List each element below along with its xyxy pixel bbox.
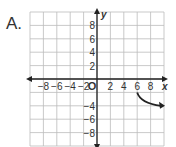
svg-text:2: 2 (108, 81, 114, 92)
svg-text:−8: −8 (84, 128, 96, 139)
svg-text:y: y (100, 9, 107, 20)
svg-text:−6: −6 (51, 81, 63, 92)
svg-text:6: 6 (134, 81, 140, 92)
svg-text:−4: −4 (64, 81, 76, 92)
curve (137, 92, 161, 105)
svg-text:2: 2 (89, 61, 95, 72)
svg-text:8: 8 (89, 20, 95, 31)
svg-text:−4: −4 (84, 101, 96, 112)
svg-text:4: 4 (121, 81, 127, 92)
svg-text:4: 4 (89, 47, 95, 58)
svg-text:8: 8 (148, 81, 154, 92)
svg-text:6: 6 (89, 34, 95, 45)
svg-text:−6: −6 (84, 114, 96, 125)
svg-text:O: O (88, 80, 97, 92)
svg-text:x: x (161, 81, 168, 92)
svg-text:−8: −8 (38, 81, 50, 92)
coordinate-plane: −8−6−4−224688642−4−6−8Oxy (0, 0, 176, 147)
